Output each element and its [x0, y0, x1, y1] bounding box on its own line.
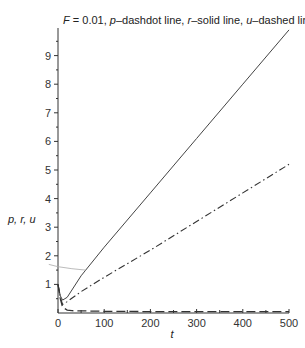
chart: F = 0.01, p–dashdot line, r–solid line, …	[0, 0, 305, 348]
y-tick-label: 7	[45, 107, 51, 119]
chart-title: F = 0.01, p–dashdot line, r–solid line, …	[63, 14, 305, 26]
plot-area	[49, 30, 289, 312]
series-reference-line	[49, 264, 86, 270]
y-tick-label: 2	[45, 250, 51, 262]
y-axis-label: p, r, u	[7, 213, 36, 225]
y-tick-label: 5	[45, 164, 51, 176]
y-axis: 123456789	[45, 28, 58, 313]
x-tick-label: 200	[141, 317, 159, 329]
y-tick-label: 4	[45, 193, 51, 205]
x-tick-label: 0	[55, 317, 61, 329]
y-tick-label: 9	[45, 50, 51, 62]
x-tick-label: 100	[95, 317, 113, 329]
y-tick-label: 3	[45, 221, 51, 233]
x-tick-label: 400	[234, 317, 252, 329]
x-tick-label: 300	[187, 317, 205, 329]
series-p-line	[58, 164, 289, 304]
series-r-line	[58, 30, 289, 300]
y-tick-label: 1	[45, 278, 51, 290]
y-tick-label: 8	[45, 78, 51, 90]
series-u-line	[58, 284, 289, 311]
x-tick-label: 500	[280, 317, 298, 329]
y-tick-label: 6	[45, 135, 51, 147]
x-axis-label: t	[170, 328, 174, 340]
